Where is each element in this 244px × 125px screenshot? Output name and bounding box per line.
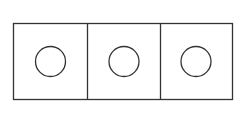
- diagram-frame: [14, 24, 233, 100]
- cell-1-circle: [36, 47, 66, 77]
- cell-3-circle: [181, 47, 211, 77]
- three-cell-diagram: [0, 0, 244, 125]
- cell-2-circle: [109, 47, 139, 77]
